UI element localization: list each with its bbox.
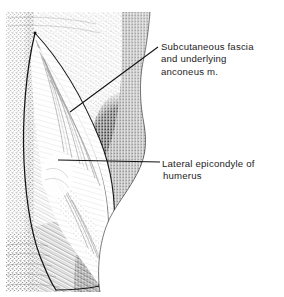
label-lateral-epicondyle: Lateral epicondyle of humerus bbox=[162, 158, 255, 183]
label-line: Subcutaneous fascia bbox=[161, 41, 254, 53]
label-line: anconeus m. bbox=[161, 66, 254, 78]
label-line: humerus bbox=[162, 170, 255, 182]
label-line: and underlying bbox=[161, 53, 254, 65]
label-subcutaneous-fascia: Subcutaneous fascia and underlying ancon… bbox=[161, 41, 254, 78]
label-line: Lateral epicondyle of bbox=[162, 158, 255, 170]
